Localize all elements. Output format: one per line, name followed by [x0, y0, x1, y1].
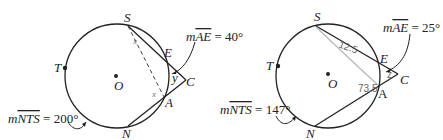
figure-2: S E C A N T O 12.5 73.5 z mAE = 25° mNTS…	[220, 9, 440, 140]
secant-NC-1	[128, 80, 186, 126]
arc-AE-pointer-2	[386, 34, 410, 72]
label-T-2: T	[266, 58, 274, 73]
label-E-2: E	[379, 51, 388, 66]
label-N-1: N	[121, 126, 132, 140]
label-S-2: S	[314, 9, 321, 24]
angle-S-label-2: 12.5	[337, 39, 359, 56]
label-O-1: O	[114, 78, 124, 93]
arc-NTS-measure-1: mNTS = 200°	[8, 111, 78, 126]
label-A-1: A	[164, 95, 173, 110]
label-S-1: S	[124, 10, 131, 25]
label-N-2: N	[305, 126, 316, 140]
angle-A-label-1: x	[151, 89, 156, 99]
pencil-line-SA-2	[316, 27, 378, 85]
arc-AE-measure-2: mAE = 25°	[383, 20, 440, 35]
angle-A-label-2: 73.5	[358, 83, 378, 94]
label-C-1: C	[186, 74, 195, 89]
figure-1: S E C A N T O x x y mAE = 40° mNTS = 200…	[8, 10, 243, 140]
point-T-2	[276, 64, 280, 68]
label-C-2: C	[400, 72, 409, 87]
label-E-1: E	[163, 45, 172, 60]
arc-NTS-pointer-2	[276, 116, 296, 124]
label-O-2: O	[328, 76, 338, 91]
arc-AE-measure-1: mAE = 40°	[186, 29, 243, 44]
geometry-diagram: S E C A N T O x x y mAE = 40° mNTS = 200…	[0, 0, 443, 140]
arc-NTS-measure-2: mNTS = 147°	[220, 102, 290, 117]
angle-S-label-1: x	[132, 36, 137, 46]
angle-C-label-2: z	[387, 69, 392, 80]
label-A-2: A	[378, 86, 388, 101]
point-T-1	[63, 66, 67, 70]
angle-C-label-1: y	[170, 70, 178, 85]
label-T-1: T	[54, 60, 62, 75]
